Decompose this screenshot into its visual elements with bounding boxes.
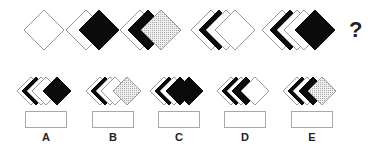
answer-label-c: C (158, 131, 200, 143)
answer-label-a: A (25, 131, 67, 143)
answer-box-a[interactable] (25, 111, 67, 128)
answer-label-b: B (92, 131, 134, 143)
answer-box-d[interactable] (224, 111, 266, 128)
answer-options: ABCDE (0, 0, 382, 152)
answer-box-b[interactable] (92, 111, 134, 128)
answer-label-e: E (291, 131, 333, 143)
answer-label-d: D (224, 131, 266, 143)
answer-box-e[interactable] (291, 111, 333, 128)
answer-box-c[interactable] (158, 111, 200, 128)
